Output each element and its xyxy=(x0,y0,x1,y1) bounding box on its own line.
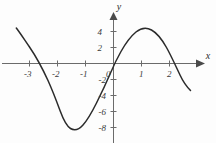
x-label-pos1: 1 xyxy=(139,69,144,79)
y-label-pos2: 2 xyxy=(98,43,103,53)
x-axis-arrow-icon xyxy=(196,60,205,68)
x-axis-name: x xyxy=(205,50,211,61)
y-label-pos4: 4 xyxy=(98,27,103,37)
y-label-neg8: -8 xyxy=(99,123,107,133)
x-label-neg1: -1 xyxy=(80,69,88,79)
y-axis-name: y xyxy=(116,1,122,12)
cubic-function-graph: -3 -2 -1 0 1 2 4 2 -2 -4 -6 -8 x y xyxy=(0,0,216,143)
x-label-neg3: -3 xyxy=(24,69,32,79)
x-label-pos2: 2 xyxy=(167,69,172,79)
y-axis-arrow-icon xyxy=(110,12,118,20)
x-label-zero: 0 xyxy=(106,69,111,79)
y-label-neg6: -6 xyxy=(99,107,107,117)
y-label-neg4: -4 xyxy=(99,91,107,101)
y-label-neg2: -2 xyxy=(99,75,107,85)
x-label-neg2: -2 xyxy=(52,69,60,79)
plot-canvas: -3 -2 -1 0 1 2 4 2 -2 -4 -6 -8 x y xyxy=(0,0,216,143)
